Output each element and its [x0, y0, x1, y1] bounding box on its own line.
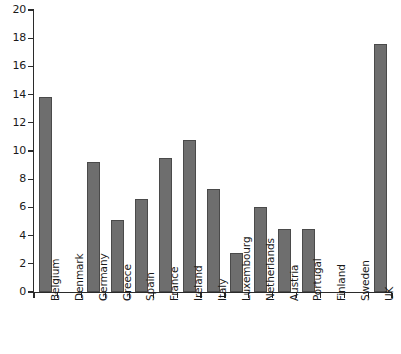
x-axis-category-label: Ireland — [193, 265, 204, 301]
y-axis-tick — [28, 263, 33, 264]
y-axis-tick — [28, 207, 33, 208]
y-axis-tick-label-wrap: 14 — [0, 89, 26, 100]
bar — [207, 189, 220, 292]
x-axis-tick — [33, 293, 34, 298]
x-axis-category-label: Netherlands — [265, 238, 276, 301]
bar — [374, 44, 387, 292]
y-axis-tick — [28, 9, 33, 10]
y-axis-tick-label-wrap: 16 — [0, 60, 26, 71]
x-axis-category-label: Spain — [145, 272, 156, 301]
y-axis-tick-label: 18 — [2, 32, 26, 43]
x-axis-category-label: Italy — [217, 279, 228, 301]
x-axis-category-label: Denmark — [74, 253, 85, 301]
y-axis-tick-label-wrap: 8 — [0, 173, 26, 184]
y-axis-tick-label-wrap: 2 — [0, 258, 26, 269]
bar-chart: 02468101214161820 BelgiumDenmarkGermanyG… — [0, 0, 401, 354]
x-axis-category-label: Greece — [122, 264, 133, 301]
y-axis-tick-label-wrap: 6 — [0, 201, 26, 212]
y-axis-tick-label-wrap: 0 — [0, 286, 26, 297]
x-axis-category-label: Luxembourg — [241, 237, 252, 301]
y-axis-tick — [28, 38, 33, 39]
y-axis-tick-label: 4 — [2, 230, 26, 241]
y-axis-tick — [28, 66, 33, 67]
y-axis-tick-label: 12 — [2, 117, 26, 128]
y-axis-line — [33, 9, 34, 293]
y-axis-tick-label-wrap: 4 — [0, 230, 26, 241]
x-axis-category-label: Austria — [289, 265, 300, 301]
y-axis-tick-label: 2 — [2, 258, 26, 269]
y-axis-tick-label: 6 — [2, 201, 26, 212]
y-axis-tick-label-wrap: 18 — [0, 32, 26, 43]
y-axis-tick-label: 20 — [2, 4, 26, 15]
y-axis-tick — [28, 150, 33, 151]
y-axis-tick — [28, 291, 33, 292]
y-axis-tick-label: 10 — [2, 145, 26, 156]
x-axis-category-label: France — [169, 267, 180, 301]
x-axis-category-label: Finland — [336, 264, 347, 301]
y-axis-tick-label-wrap: 12 — [0, 117, 26, 128]
x-axis-category-label: Belgium — [50, 259, 61, 301]
y-axis-tick-label: 16 — [2, 60, 26, 71]
x-axis-category-label: UK — [384, 287, 395, 301]
y-axis-tick-label-wrap: 10 — [0, 145, 26, 156]
y-axis-tick — [28, 235, 33, 236]
y-axis-tick-label: 8 — [2, 173, 26, 184]
x-axis-category-label: Germany — [98, 253, 109, 301]
x-axis-category-label: Portugal — [312, 258, 323, 301]
y-axis-tick-label: 0 — [2, 286, 26, 297]
y-axis-tick — [28, 122, 33, 123]
y-axis-tick-label: 14 — [2, 89, 26, 100]
y-axis-tick — [28, 179, 33, 180]
x-axis-category-label: Sweden — [360, 260, 371, 301]
y-axis-tick — [28, 94, 33, 95]
y-axis-tick-label-wrap: 20 — [0, 4, 26, 15]
